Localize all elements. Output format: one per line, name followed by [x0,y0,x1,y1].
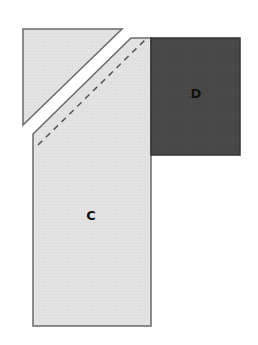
label-c: C [86,208,96,223]
label-d: D [191,86,202,101]
quilt-diagram: D C [0,0,258,345]
